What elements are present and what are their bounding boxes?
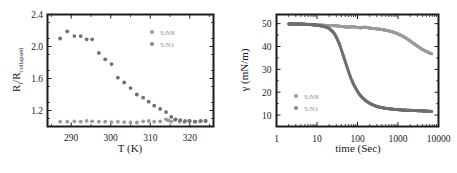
ytick-label: 1.2 (31, 106, 43, 116)
left-yaxis-title: Rl/Rcollapsed (10, 47, 24, 92)
xtick-label: 1 (274, 134, 279, 144)
right-ytick-labels: 1020304050 (262, 19, 272, 120)
left-xtick-labels: 290300310320 (64, 133, 197, 143)
ytick-label: 20 (262, 88, 272, 98)
legend-marker-sn8 (150, 30, 154, 34)
yaxis-title-slash-r: /R (10, 72, 22, 83)
xtick-label: 310 (143, 133, 158, 143)
left-plot-frame (48, 15, 214, 127)
legend-marker-sn8 (294, 94, 298, 98)
ytick-label: 2.4 (31, 10, 43, 20)
left-ytick-labels: 2.4 2.0 1.6 1.2 (31, 10, 43, 116)
right-legend: S:N8 S:N1 (294, 93, 319, 113)
ytick-label: 50 (262, 19, 272, 29)
xtick-label: 320 (183, 133, 198, 143)
left-data-points (58, 29, 207, 124)
legend-marker-sn1 (294, 106, 298, 110)
left-panel-svg: 2.4 2.0 1.6 1.2 290300310320 T (K) Rl/Rc… (0, 0, 228, 173)
legend-label-sn1: S:N1 (160, 41, 175, 49)
ytick-label: 30 (262, 65, 272, 75)
right-yaxis-title-text: γ (mN/m) (238, 48, 251, 92)
ytick-label: 2.0 (31, 42, 43, 52)
legend-label-sn8: S:N8 (304, 93, 319, 101)
right-panel-svg: 1020304050 110100100010000 time (Sec) γ … (228, 0, 457, 173)
right-xaxis-title: time (Sec) (335, 142, 381, 155)
figure-container: 2.4 2.0 1.6 1.2 290300310320 T (K) Rl/Rc… (0, 0, 457, 173)
svg-text:Rl/Rcollapsed: Rl/Rcollapsed (10, 47, 24, 92)
xtick-label: 290 (64, 133, 79, 143)
left-panel: 2.4 2.0 1.6 1.2 290300310320 T (K) Rl/Rc… (0, 0, 228, 173)
series-sn1 (58, 29, 207, 123)
xtick-label: 300 (104, 133, 119, 143)
left-xaxis-title: T (K) (118, 142, 143, 155)
yaxis-title-sub-collapsed: collapsed (17, 47, 24, 72)
legend-label-sn1: S:N1 (304, 105, 319, 113)
xtick-label: 10000 (427, 134, 451, 144)
ytick-label: 1.6 (31, 74, 43, 84)
legend-label-sn8: S:N8 (160, 29, 175, 37)
series-sn8 (287, 22, 433, 55)
right-yaxis-title: γ (mN/m) (238, 48, 251, 92)
ytick-label: 10 (262, 111, 272, 121)
ytick-label: 40 (262, 42, 272, 52)
xtick-label: 10 (312, 134, 322, 144)
legend-marker-sn1 (150, 42, 154, 46)
right-panel: 1020304050 110100100010000 time (Sec) γ … (228, 0, 457, 173)
left-axis-ticks (48, 15, 214, 127)
left-legend: S:N8 S:N1 (150, 29, 175, 49)
xtick-label: 1000 (389, 134, 408, 144)
